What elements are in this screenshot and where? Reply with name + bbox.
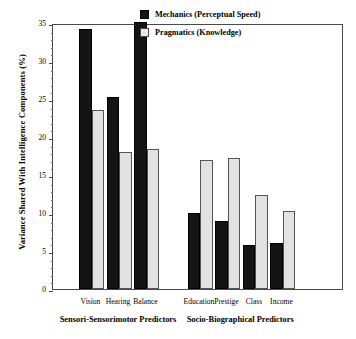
x-category-label-class: Class bbox=[246, 297, 262, 306]
bar-vision-mechanics bbox=[79, 29, 92, 289]
y-axis-minor-tick bbox=[51, 154, 54, 155]
y-axis-minor-tick bbox=[51, 109, 54, 110]
y-axis-minor-tick bbox=[51, 230, 54, 231]
y-tick-label: 30 bbox=[26, 58, 46, 66]
y-axis-major-tick bbox=[49, 291, 53, 292]
y-axis-minor-tick bbox=[51, 131, 54, 132]
x-axis-group-labels: Sensori-Sensorimotor PredictorsSocio-Bio… bbox=[20, 315, 356, 331]
y-axis-minor-tick bbox=[51, 238, 54, 239]
y-axis-minor-tick bbox=[51, 283, 54, 284]
y-axis-minor-tick bbox=[51, 162, 54, 163]
x-category-label-income: Income bbox=[270, 297, 293, 306]
bar-class-pragmatics bbox=[255, 195, 268, 289]
bar-education-mechanics bbox=[188, 213, 201, 289]
x-category-label-balance: Balance bbox=[133, 297, 157, 306]
y-axis-minor-tick bbox=[51, 86, 54, 87]
x-group-label-1: Sensori-Sensorimotor Predictors bbox=[60, 315, 177, 324]
x-category-label-hearing: Hearing bbox=[106, 297, 130, 306]
x-category-label-prestige: Prestige bbox=[214, 297, 238, 306]
y-tick-label: 25 bbox=[26, 96, 46, 104]
chart-legend: Mechanics (Perceptual Speed)Pragmatics (… bbox=[140, 6, 290, 42]
y-axis-major-tick bbox=[49, 253, 53, 254]
legend-item-2: Pragmatics (Knowledge) bbox=[140, 24, 290, 40]
plot-inner bbox=[53, 25, 342, 289]
y-axis-minor-tick bbox=[51, 276, 54, 277]
y-axis-major-tick bbox=[49, 101, 53, 102]
y-axis-major-tick bbox=[49, 25, 53, 26]
y-axis-minor-tick bbox=[51, 55, 54, 56]
legend-swatch-mech bbox=[140, 10, 149, 19]
bar-prestige-pragmatics bbox=[228, 158, 241, 289]
bar-class-mechanics bbox=[243, 245, 256, 289]
y-axis-minor-tick bbox=[51, 169, 54, 170]
x-group-label-2: Socio-Biographical Predictors bbox=[187, 315, 294, 324]
y-axis-minor-tick bbox=[51, 78, 54, 79]
y-axis-minor-tick bbox=[51, 71, 54, 72]
y-tick-label: 35 bbox=[26, 20, 46, 28]
y-axis-minor-tick bbox=[51, 207, 54, 208]
legend-item-1: Mechanics (Perceptual Speed) bbox=[140, 6, 290, 22]
y-tick-label: 15 bbox=[26, 172, 46, 180]
bar-education-pragmatics bbox=[200, 160, 213, 289]
legend-swatch-prag bbox=[140, 28, 149, 37]
y-axis-minor-tick bbox=[51, 48, 54, 49]
bar-balance-pragmatics bbox=[147, 149, 160, 289]
legend-label-2: Pragmatics (Knowledge) bbox=[155, 28, 241, 37]
x-axis-category-labels: VisionHearingBalanceEducationPrestigeCla… bbox=[52, 297, 343, 311]
bar-hearing-mechanics bbox=[107, 97, 120, 289]
legend-label-1: Mechanics (Perceptual Speed) bbox=[155, 10, 260, 19]
y-axis-minor-tick bbox=[51, 223, 54, 224]
y-axis-major-tick bbox=[49, 139, 53, 140]
bar-balance-mechanics bbox=[134, 22, 147, 289]
y-tick-label: 10 bbox=[26, 210, 46, 218]
bar-income-pragmatics bbox=[283, 211, 296, 289]
y-axis-minor-tick bbox=[51, 268, 54, 269]
y-axis-minor-tick bbox=[51, 93, 54, 94]
bar-vision-pragmatics bbox=[92, 110, 105, 289]
y-axis-title-container: Variance Shared With Intelligence Compon… bbox=[0, 0, 22, 300]
x-category-label-vision: Vision bbox=[81, 297, 101, 306]
y-axis-tick-labels: 05101520253035 bbox=[24, 0, 46, 339]
y-axis-major-tick bbox=[49, 63, 53, 64]
y-axis-minor-tick bbox=[51, 33, 54, 34]
y-axis-minor-tick bbox=[51, 116, 54, 117]
plot-area bbox=[52, 24, 343, 290]
y-axis-minor-tick bbox=[51, 200, 54, 201]
y-tick-label: 20 bbox=[26, 134, 46, 142]
bar-chart-figure: Variance Shared With Intelligence Compon… bbox=[0, 0, 356, 339]
y-tick-label: 5 bbox=[26, 248, 46, 256]
bar-income-mechanics bbox=[270, 243, 283, 289]
y-axis-minor-tick bbox=[51, 40, 54, 41]
y-axis-major-tick bbox=[49, 177, 53, 178]
y-axis-minor-tick bbox=[51, 124, 54, 125]
x-category-label-education: Education bbox=[184, 297, 215, 306]
y-axis-minor-tick bbox=[51, 185, 54, 186]
y-axis-minor-tick bbox=[51, 245, 54, 246]
bar-prestige-mechanics bbox=[215, 221, 228, 289]
bar-hearing-pragmatics bbox=[119, 152, 132, 289]
y-axis-major-tick bbox=[49, 215, 53, 216]
y-axis-minor-tick bbox=[51, 192, 54, 193]
y-axis-minor-tick bbox=[51, 261, 54, 262]
y-tick-label: 0 bbox=[26, 286, 46, 294]
y-axis-minor-tick bbox=[51, 147, 54, 148]
